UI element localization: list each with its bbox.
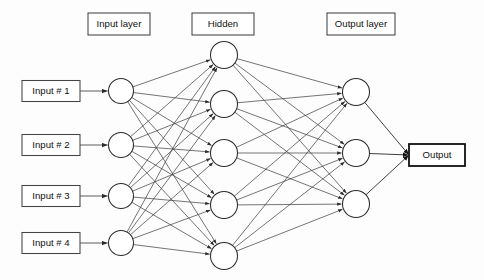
layer-label-output-layer-label: Output layer [335,18,388,29]
edge-h1-o2 [235,63,345,144]
neuron-h1 [211,42,238,69]
edge-h2-o3 [235,112,345,195]
edge-h1-o1 [237,59,342,88]
edge-i1-h3 [132,97,212,145]
edge-h5-o3 [237,209,343,251]
neural-network-diagram: Input layerHiddenOutput layerInput # 1In… [0,0,484,280]
edge-i4-h4 [133,210,211,239]
edge-i1-h1 [133,60,211,87]
arrow-o1-to-output [365,102,409,154]
network-svg: Input layerHiddenOutput layerInput # 1In… [0,0,484,280]
input-box-input-1-label: Input # 1 [32,85,69,96]
neuron-h2 [211,91,238,118]
input-box-input-3-label: Input # 3 [32,190,69,201]
neuron-h5 [211,243,238,270]
input-box-input-2-label: Input # 2 [32,139,69,150]
layer-label-output-layer: Output layer [327,13,395,35]
neuron-i3 [109,184,134,209]
edge-h3-o3 [237,158,343,199]
neuron-o1 [343,79,370,106]
edge-i4-h2 [128,116,215,233]
arrow-o2-to-output [369,154,408,155]
input-box-input-2: Input # 2 [22,135,80,156]
output-box-label: Output [423,149,452,160]
input-box-input-4: Input # 4 [22,233,80,254]
edges-input-to-hidden [127,60,217,254]
input-box-input-1: Input # 1 [22,81,80,102]
edge-i3-h1 [128,67,215,186]
edge-h4-o1 [234,101,345,196]
neuron-i1 [109,79,134,104]
edge-i4-h1 [127,68,217,232]
neuron-o3 [343,191,370,218]
edges-inputbox-to-node [80,91,108,243]
edge-i4-h5 [133,245,209,255]
layer-label-hidden: Hidden [192,13,254,35]
edge-i3-h5 [132,202,212,248]
edge-i2-h5 [130,154,215,245]
edge-h3-o1 [236,98,343,147]
edge-i3-h4 [133,197,209,204]
edge-h4-o2 [237,158,343,200]
neuron-h3 [211,140,238,167]
layer-label-hidden-label: Hidden [208,18,238,29]
neuron-i2 [109,133,134,158]
edges-output-to-outputbox [365,102,409,195]
edge-i1-h4 [129,100,214,194]
neuron-nodes [109,42,370,270]
edge-h2-o1 [237,93,341,102]
label-boxes: Input layerHiddenOutput layerInput # 1In… [22,13,465,254]
neuron-i4 [109,231,134,256]
input-box-input-4-label: Input # 4 [32,237,70,248]
neuron-h4 [211,192,238,219]
output-box: Output [409,144,465,166]
input-box-input-3: Input # 3 [22,186,80,207]
neuron-o2 [343,140,370,167]
layer-label-input-layer-label: Input layer [97,18,143,29]
arrow-o3-to-output [366,156,408,195]
edges-hidden-to-output [232,59,346,251]
layer-label-input-layer: Input layer [88,13,150,35]
